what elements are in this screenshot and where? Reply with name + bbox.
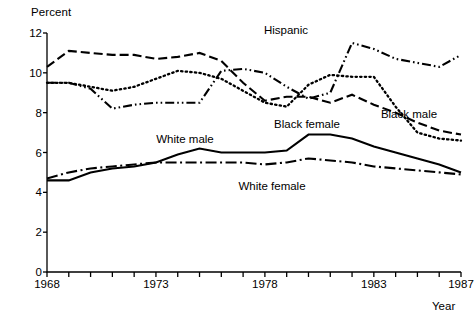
plot-area (0, 0, 475, 322)
series-line-hispanic (47, 43, 461, 109)
series-line-white-male (47, 135, 461, 181)
series-line-black-male (47, 51, 461, 135)
chart-figure: Percent 024681012 19681973197819831987 H… (0, 0, 475, 322)
